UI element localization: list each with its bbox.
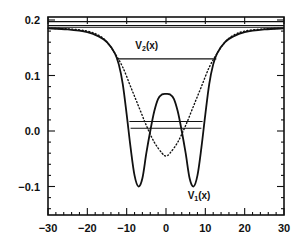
x-tick-label: −20	[78, 222, 97, 234]
v1-curve	[48, 28, 284, 186]
x-tick-label: 10	[199, 222, 211, 234]
curve-labels: V2(x)V1(x)	[135, 40, 210, 202]
x-tick-label: 0	[163, 222, 169, 234]
x-axis-ticks: −30−20−100102030	[39, 17, 290, 234]
x-tick-label: 20	[239, 222, 251, 234]
potential-chart: −30−20−100102030 −0.10.00.10.2 V2(x)V1(x…	[0, 0, 306, 242]
curve-label: V1(x)	[188, 190, 211, 202]
energy-levels	[48, 22, 284, 129]
x-tick-label: −30	[39, 222, 58, 234]
y-tick-label: 0.0	[25, 125, 40, 137]
curve-label: V2(x)	[135, 40, 158, 52]
v2-curve	[48, 28, 284, 156]
y-tick-label: −0.1	[18, 181, 40, 193]
x-tick-label: 30	[278, 222, 290, 234]
x-tick-label: −10	[117, 222, 136, 234]
y-tick-label: 0.2	[25, 14, 40, 26]
potential-curves	[48, 28, 284, 186]
y-tick-label: 0.1	[25, 70, 40, 82]
plot-frame	[48, 17, 284, 215]
